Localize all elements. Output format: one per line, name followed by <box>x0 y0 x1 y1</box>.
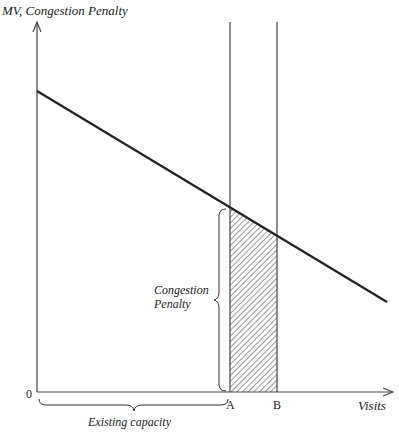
tick-label-a: A <box>226 398 235 412</box>
congestion-penalty-brace <box>214 209 226 391</box>
diagram-canvas: MV, Congestion Penalty 0 A B Visits Cong… <box>0 0 399 435</box>
existing-capacity-brace <box>39 399 228 411</box>
tick-label-b: B <box>273 398 281 412</box>
mv-line <box>37 91 387 302</box>
x-axis-label: Visits <box>358 398 386 413</box>
congestion-penalty-label-line2: Penalty <box>153 297 191 311</box>
y-axis-label: MV, Congestion Penalty <box>1 3 128 18</box>
origin-label: 0 <box>26 387 32 401</box>
existing-capacity-label: Existing capacity <box>87 415 172 429</box>
congestion-penalty-label-line1: Congestion <box>154 283 209 297</box>
congestion-penalty-region <box>230 207 277 392</box>
